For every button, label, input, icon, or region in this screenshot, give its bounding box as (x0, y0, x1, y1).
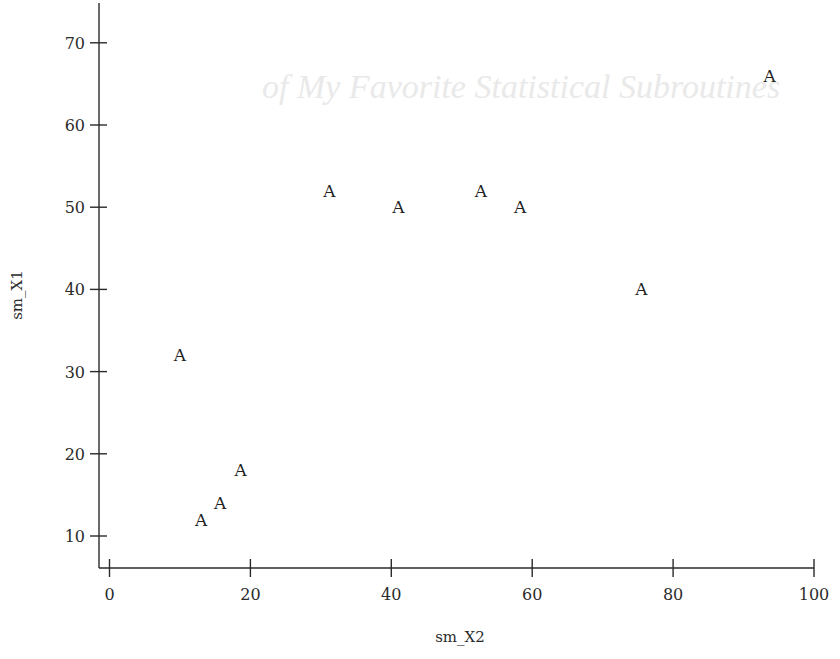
data-point-marker: A (233, 460, 247, 480)
y-tick-label: 30 (65, 363, 85, 382)
x-tick-label: 60 (522, 585, 542, 604)
x-axis: 020406080100 (99, 559, 829, 604)
scatter-chart: of My Favorite Statistical Subroutines A… (0, 0, 840, 659)
data-point-marker: A (322, 181, 336, 201)
y-tick-label: 40 (65, 280, 85, 299)
x-tick-label: 100 (799, 585, 830, 604)
y-tick-label: 70 (65, 34, 85, 53)
x-tick-label: 20 (240, 585, 260, 604)
y-tick-label: 10 (65, 527, 85, 546)
data-point-marker: A (634, 279, 648, 299)
y-tick-label: 20 (65, 445, 85, 464)
x-tick-label: 40 (381, 585, 401, 604)
data-point-marker: A (762, 66, 776, 86)
y-tick-label: 60 (65, 116, 85, 135)
x-axis-title: sm_X2 (435, 628, 485, 646)
y-axis: 10203040506070 (65, 3, 107, 568)
data-point-marker: A (173, 345, 187, 365)
data-point-marker: A (474, 181, 488, 201)
x-tick-label: 0 (104, 585, 114, 604)
x-tick-label: 80 (663, 585, 683, 604)
y-axis-title: sm_X1 (8, 270, 26, 320)
plot-area: AAAAAAAAAA (173, 66, 777, 530)
y-tick-label: 50 (65, 198, 85, 217)
data-point-marker: A (194, 510, 208, 530)
bleed-through-heading: of My Favorite Statistical Subroutines (262, 68, 780, 105)
data-point-marker: A (513, 197, 527, 217)
data-point-marker: A (213, 493, 227, 513)
data-point-marker: A (391, 197, 405, 217)
